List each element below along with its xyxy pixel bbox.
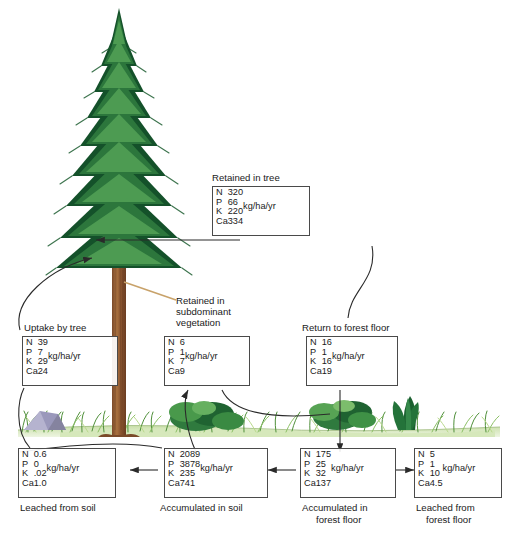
caption-accumulated-forestfloor-line2: forest floor: [316, 514, 361, 525]
row-element: Ca: [168, 367, 180, 377]
caption-subdominant-line2: subdominant: [176, 306, 231, 317]
box-leached-from-forest-floor: N 5 kg/ha/yr P 1 K 10 Ca 4.5: [414, 448, 502, 498]
box-return-to-forest-floor: N 16 kg/ha/yr P 1 K 16 Ca 19: [306, 336, 398, 386]
row-element: Ca: [216, 217, 228, 227]
row-element: Ca: [418, 479, 430, 489]
caption-subdominant-line1: Retained in: [176, 295, 225, 306]
row-value: 334: [228, 217, 243, 227]
row-value: 19: [322, 367, 332, 377]
caption-accumulated-forestfloor-line1: Accumulated in: [302, 502, 368, 513]
caption-return-to-forest-floor: Return to forest floor: [302, 322, 389, 333]
line-soil-to-uptake: [19, 388, 30, 448]
box-uptake-by-tree: N 39 kg/ha/yr P 7 K 29 Ca 24: [22, 336, 118, 386]
row-element: Ca: [310, 367, 322, 377]
caption-accumulated-in-soil: Accumulated in soil: [160, 502, 243, 513]
row-value: 741: [180, 479, 200, 489]
unit-label: kg/ha/yr: [200, 450, 233, 488]
caption-leached-forestfloor-line2: forest floor: [426, 514, 471, 525]
row-value: 1.0: [34, 479, 47, 489]
row-value: 9: [180, 367, 185, 377]
shrub-center: [169, 401, 244, 431]
ground-layer: [18, 425, 500, 437]
row-element: Ca: [26, 367, 38, 377]
box-accumulated-in-forest-floor: N 175 kg/ha/yr P 25 K 32 Ca 137: [300, 448, 396, 498]
nutrient-cycle-diagram: Retained in tree N 320 kg/ha/yr P 66 K 2…: [0, 0, 516, 539]
caption-subdominant-line3: vegetation: [176, 317, 220, 328]
unit-label: kg/ha/yr: [331, 450, 364, 488]
leader-line-subdominant: [124, 282, 176, 300]
box-leached-from-soil: N 0.6 kg/ha/yr P 0 K .02 Ca 1.0: [18, 448, 116, 498]
box-retained-in-subdominant-vegetation: N 6 kg/ha/yr P 1 K 7 Ca 9: [164, 336, 250, 386]
row-value: 4.5: [430, 479, 443, 489]
line-tree-to-return: [348, 246, 373, 318]
caption-leached-forestfloor-line1: Leached from: [416, 502, 475, 513]
unit-label: kg/ha/yr: [443, 450, 476, 488]
unit-label: kg/ha/yr: [47, 450, 80, 488]
row-element: Ca: [304, 479, 316, 489]
unit-label: kg/ha/yr: [332, 338, 365, 376]
unit-label: kg/ha/yr: [185, 338, 218, 376]
row-value: 24: [38, 367, 48, 377]
caption-leached-from-soil: Leached from soil: [20, 502, 96, 513]
row-element: Ca: [168, 479, 180, 489]
row-value: 137: [316, 479, 331, 489]
box-retained-in-tree: N 320 kg/ha/yr P 66 K 220 Ca 334: [212, 186, 310, 236]
unit-label: kg/ha/yr: [48, 338, 81, 376]
unit-label: kg/ha/yr: [243, 188, 276, 226]
row-element: Ca: [22, 479, 34, 489]
box-accumulated-in-soil: N 2089 kg/ha/yr P 3878 K 235 Ca 741: [164, 448, 268, 498]
caption-retained-in-tree: Retained in tree: [212, 172, 280, 183]
caption-uptake-by-tree: Uptake by tree: [24, 322, 86, 333]
fern-right: [393, 396, 419, 430]
